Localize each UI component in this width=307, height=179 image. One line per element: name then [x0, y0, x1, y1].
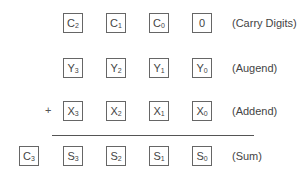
addend-x0-box: X0: [192, 101, 212, 121]
cell-base: S: [110, 150, 117, 162]
cell-base: Y: [67, 62, 74, 74]
addend-x1-box: X1: [149, 101, 169, 121]
cell-base: Y: [153, 62, 160, 74]
cell-base: S: [196, 150, 203, 162]
cell-subscript: 1: [161, 155, 165, 162]
cell-subscript: 2: [118, 67, 122, 74]
augend-label: (Augend): [232, 62, 277, 74]
carry-zero-box: 0: [192, 13, 212, 33]
addend-x3-box: X3: [63, 101, 83, 121]
cell-base: 0: [199, 17, 205, 29]
addend-label: (Addend): [232, 105, 277, 117]
cell-subscript: 1: [161, 67, 165, 74]
cell-base: C: [67, 17, 75, 29]
sum-s2-box: S2: [106, 146, 126, 166]
sum-s3-box: S3: [63, 146, 83, 166]
cell-base: X: [67, 105, 74, 117]
cell-subscript: 3: [31, 155, 35, 162]
cell-base: Y: [196, 62, 203, 74]
cell-subscript: 0: [204, 110, 208, 117]
cell-subscript: 3: [75, 67, 79, 74]
carry-c2-box: C2: [63, 13, 83, 33]
augend-y3-box: Y3: [63, 58, 83, 78]
cell-base: X: [153, 105, 160, 117]
cell-subscript: 0: [204, 67, 208, 74]
cell-subscript: 0: [161, 22, 165, 29]
cell-base: S: [67, 150, 74, 162]
cell-base: C: [153, 17, 161, 29]
cell-base: X: [110, 105, 117, 117]
cell-base: S: [153, 150, 160, 162]
cell-subscript: 3: [75, 110, 79, 117]
sum-s0-box: S0: [192, 146, 212, 166]
augend-y2-box: Y2: [106, 58, 126, 78]
addend-x2-box: X2: [106, 101, 126, 121]
sum-divider-line: [52, 135, 254, 136]
cell-base: Y: [110, 62, 117, 74]
carry-digits-label: (Carry Digits): [232, 17, 297, 29]
sum-s1-box: S1: [149, 146, 169, 166]
cell-base: C: [110, 17, 118, 29]
cell-subscript: 1: [118, 22, 122, 29]
carry-c1-box: C1: [106, 13, 126, 33]
carry-out-c3-box: C3: [19, 146, 39, 166]
augend-y1-box: Y1: [149, 58, 169, 78]
plus-operator: +: [45, 104, 51, 116]
cell-subscript: 2: [118, 110, 122, 117]
augend-y0-box: Y0: [192, 58, 212, 78]
cell-subscript: 2: [118, 155, 122, 162]
cell-subscript: 0: [204, 155, 208, 162]
cell-subscript: 1: [161, 110, 165, 117]
cell-subscript: 3: [75, 155, 79, 162]
carry-c0-box: C0: [149, 13, 169, 33]
cell-base: X: [196, 105, 203, 117]
cell-subscript: 2: [75, 22, 79, 29]
cell-base: C: [23, 150, 31, 162]
sum-label: (Sum): [232, 150, 262, 162]
